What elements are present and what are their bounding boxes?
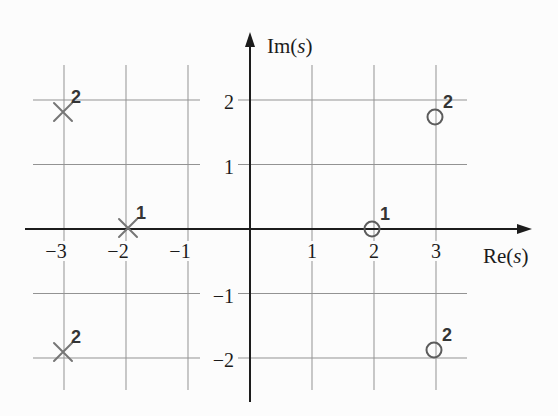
x-tick-label: −3 <box>45 240 66 262</box>
x-tick-label: 2 <box>369 240 379 262</box>
multiplicity-label: 2 <box>71 327 81 347</box>
pole-zero-plot: Im(s)Re(s)−3−2−112321−1−2212212 <box>0 0 558 416</box>
figure-background <box>0 0 558 416</box>
multiplicity-label: 2 <box>443 92 453 112</box>
x-tick-label: 3 <box>431 240 441 262</box>
multiplicity-label: 1 <box>380 204 390 224</box>
x-tick-label: −2 <box>107 240 128 262</box>
y-tick-label: 2 <box>224 91 234 113</box>
x-tick-label: 1 <box>307 240 317 262</box>
y-tick-label: 1 <box>224 156 234 178</box>
x-tick-label: −1 <box>169 240 190 262</box>
pole-zero-figure: Im(s)Re(s)−3−2−112321−1−2212212 <box>0 0 558 416</box>
multiplicity-label: 2 <box>442 325 452 345</box>
real-axis-label: Re(s) <box>483 244 529 268</box>
multiplicity-label: 1 <box>136 203 146 223</box>
y-tick-label: −2 <box>213 349 234 371</box>
multiplicity-label: 2 <box>71 87 81 107</box>
imaginary-axis-label: Im(s) <box>267 34 313 58</box>
y-tick-label: −1 <box>213 285 234 307</box>
